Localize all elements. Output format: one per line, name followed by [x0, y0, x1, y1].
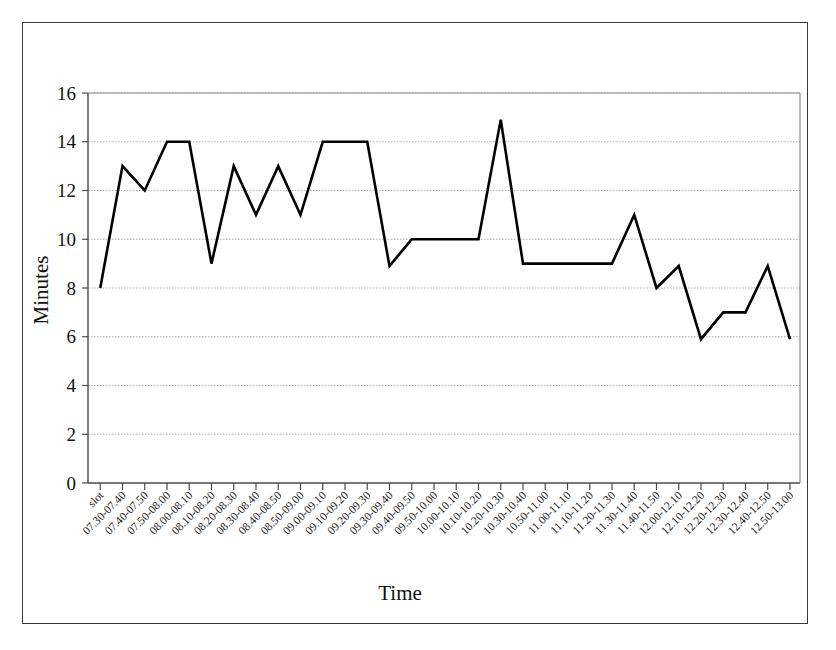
y-tick-label: 2: [67, 424, 77, 445]
y-tick-label: 4: [67, 375, 77, 396]
y-tick-label: 16: [57, 83, 76, 104]
gridlines: [88, 93, 800, 434]
y-tick-label: 14: [57, 131, 77, 152]
x-axis-ticks: [100, 483, 790, 490]
figure-container: 0246810121416 slot07.30-07.4007.40-07.50…: [0, 0, 836, 650]
plot-frame: [88, 93, 800, 483]
y-tick-label: 12: [57, 180, 76, 201]
series-path: [100, 120, 790, 339]
x-axis-title: Time: [378, 581, 422, 605]
y-axis-tick-labels: 0246810121416: [57, 83, 77, 494]
y-axis-ticks: [82, 93, 88, 483]
y-axis-title: Minutes: [29, 256, 53, 325]
data-series-line: [100, 120, 790, 339]
y-tick-label: 8: [67, 278, 77, 299]
y-tick-label: 6: [67, 326, 77, 347]
x-axis-tick-labels: slot07.30-07.4007.40-07.5007.50-08.0008.…: [80, 488, 795, 536]
y-tick-label: 10: [57, 229, 76, 250]
y-tick-label: 0: [67, 473, 77, 494]
line-chart: 0246810121416 slot07.30-07.4007.40-07.50…: [0, 0, 836, 650]
